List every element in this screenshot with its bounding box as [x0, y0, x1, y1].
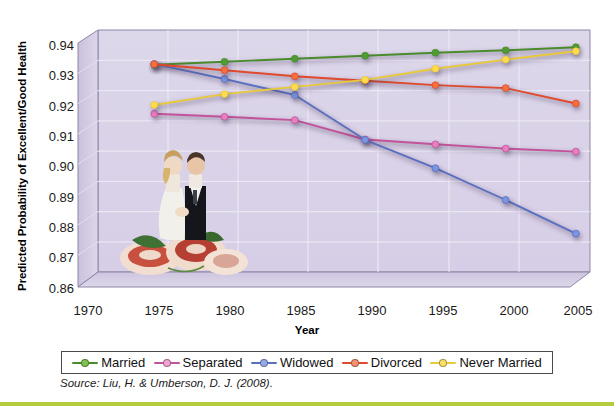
- data-point[interactable]: [502, 47, 509, 54]
- legend-marker-icon-widowed: [251, 357, 277, 368]
- legend-item-divorced[interactable]: Divorced: [342, 355, 422, 370]
- data-point[interactable]: [502, 197, 509, 204]
- data-point[interactable]: [432, 141, 439, 148]
- x-tick-1: 1975: [133, 303, 185, 318]
- data-point[interactable]: [432, 82, 439, 89]
- legend-marker-icon-separated: [154, 357, 180, 368]
- y-tick-7: 0.87: [30, 251, 74, 264]
- legend-item-separated[interactable]: Separated: [154, 355, 243, 370]
- chart-legend: Married Separated Widowed Divorced: [61, 351, 553, 374]
- legend-label-divorced: Divorced: [370, 355, 422, 370]
- y-tick-6: 0.88: [30, 221, 74, 234]
- y-tick-4: 0.90: [30, 160, 74, 173]
- data-point[interactable]: [573, 230, 580, 237]
- data-point[interactable]: [291, 73, 298, 80]
- legend-marker-icon-never-married: [430, 357, 456, 368]
- y-tick-1: 0.93: [30, 69, 74, 82]
- data-point[interactable]: [573, 48, 580, 55]
- legend-item-never-married[interactable]: Never Married: [430, 355, 541, 370]
- legend-item-married[interactable]: Married: [72, 355, 145, 370]
- data-point[interactable]: [432, 165, 439, 172]
- x-tick-2: 1980: [204, 303, 256, 318]
- x-tick-6: 2000: [488, 303, 540, 318]
- data-point[interactable]: [151, 102, 158, 109]
- x-axis-ticks: 1970 1975 1980 1985 1990 1995 2000 2005: [0, 303, 614, 323]
- source-note: Source: Liu, H. & Umberson, D. J. (2008)…: [60, 377, 273, 389]
- x-axis-title: Year: [0, 324, 614, 336]
- y-tick-3: 0.91: [30, 130, 74, 143]
- chart-figure: 0.94 0.93 0.92 0.91 0.90 0.89 0.88 0.87 …: [0, 0, 614, 418]
- y-tick-5: 0.89: [30, 191, 74, 204]
- data-point[interactable]: [502, 85, 509, 92]
- data-point[interactable]: [502, 145, 509, 152]
- y-tick-2: 0.92: [30, 100, 74, 113]
- data-point[interactable]: [221, 113, 228, 120]
- legend-marker-icon-divorced: [342, 357, 368, 368]
- data-point[interactable]: [362, 136, 369, 143]
- legend-marker-icon-married: [72, 357, 98, 368]
- y-tick-8: 0.86: [30, 282, 74, 295]
- data-point[interactable]: [362, 77, 369, 84]
- y-tick-0: 0.94: [30, 39, 74, 52]
- data-point[interactable]: [221, 58, 228, 65]
- data-point[interactable]: [573, 100, 580, 107]
- x-tick-4: 1990: [346, 303, 398, 318]
- data-point[interactable]: [221, 91, 228, 98]
- data-point[interactable]: [291, 55, 298, 62]
- data-point[interactable]: [502, 56, 509, 63]
- bottom-accent-bar: [0, 402, 614, 406]
- data-point[interactable]: [291, 84, 298, 91]
- data-point[interactable]: [151, 61, 158, 68]
- legend-item-widowed[interactable]: Widowed: [251, 355, 333, 370]
- legend-label-married: Married: [100, 355, 145, 370]
- legend-label-separated: Separated: [182, 355, 243, 370]
- x-tick-3: 1985: [275, 303, 327, 318]
- data-point[interactable]: [432, 65, 439, 72]
- legend-label-never-married: Never Married: [458, 355, 541, 370]
- y-axis-title: Predicted Probability of Excellent/Good …: [16, 16, 28, 316]
- legend-label-widowed: Widowed: [279, 355, 333, 370]
- x-tick-7: 2005: [552, 303, 604, 318]
- data-point[interactable]: [221, 67, 228, 74]
- x-tick-5: 1995: [417, 303, 469, 318]
- data-point[interactable]: [573, 148, 580, 155]
- data-point[interactable]: [291, 117, 298, 124]
- data-point[interactable]: [362, 52, 369, 59]
- data-point[interactable]: [432, 49, 439, 56]
- x-tick-0: 1970: [62, 303, 114, 318]
